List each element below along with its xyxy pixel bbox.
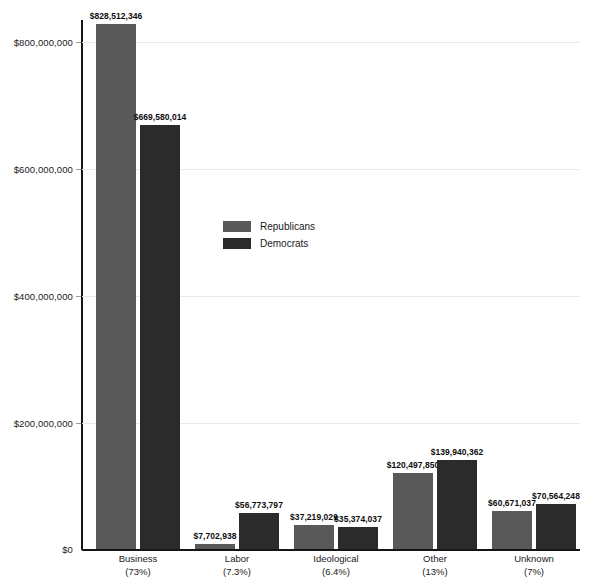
bar-group-other: $120,497,850 $139,940,362 [393, 20, 477, 549]
bar-republicans-unknown[interactable]: $60,671,037 [492, 511, 532, 549]
bar-republicans-other[interactable]: $120,497,850 [393, 473, 433, 549]
plot-area: $828,512,346 $669,580,014 $7,702,938 $56… [82, 20, 580, 549]
category-name: Unknown [514, 553, 554, 564]
legend-swatch-icon [223, 221, 251, 232]
x-axis-line [82, 549, 580, 551]
bar-republicans-ideological[interactable]: $37,219,029 [294, 525, 334, 549]
x-axis-category-labor: Labor (7.3%) [187, 553, 287, 578]
bar-republicans-labor[interactable]: $7,702,938 [195, 544, 235, 549]
bar-democrats-labor[interactable]: $56,773,797 [239, 513, 279, 549]
y-axis-tick-label: $800,000,000 [3, 37, 73, 48]
category-name: Labor [225, 553, 249, 564]
bar-value-label: $7,702,938 [193, 531, 236, 541]
category-percent: (7%) [484, 566, 584, 579]
bar-value-label: $70,564,248 [532, 491, 580, 501]
bar-value-label: $120,497,850 [387, 460, 440, 470]
bar-value-label: $139,940,362 [431, 447, 484, 457]
bar-democrats-ideological[interactable]: $35,374,037 [338, 527, 378, 549]
bar-value-label: $56,773,797 [235, 500, 283, 510]
y-axis-tick-label: $0 [3, 544, 73, 555]
bar-group-unknown: $60,671,037 $70,564,248 [492, 20, 576, 549]
category-name: Ideological [313, 553, 358, 564]
bar-value-label: $669,580,014 [134, 112, 187, 122]
category-percent: (13%) [385, 566, 485, 579]
y-axis-tick-label: $600,000,000 [3, 164, 73, 175]
bar-group-ideological: $37,219,029 $35,374,037 [294, 20, 378, 549]
bar-chart: $800,000,000 $600,000,000 $400,000,000 $… [0, 0, 602, 579]
category-name: Business [119, 553, 158, 564]
bar-group-business: $828,512,346 $669,580,014 [96, 20, 180, 549]
bar-value-label: $35,374,037 [334, 514, 382, 524]
legend-item-republicans[interactable]: Republicans [223, 219, 315, 234]
x-axis-category-ideological: Ideological (6.4%) [286, 553, 386, 578]
legend-label: Republicans [260, 221, 315, 232]
y-axis-tick-label: $200,000,000 [3, 418, 73, 429]
x-axis-labels: Business (73%) Labor (7.3%) Ideological … [82, 553, 580, 579]
y-axis-tick-label: $400,000,000 [3, 291, 73, 302]
bar-republicans-business[interactable]: $828,512,346 [96, 24, 136, 549]
x-axis-category-unknown: Unknown (7%) [484, 553, 584, 578]
y-axis-labels: $800,000,000 $600,000,000 $400,000,000 $… [0, 0, 73, 579]
category-percent: (6.4%) [286, 566, 386, 579]
legend-item-democrats[interactable]: Democrats [223, 236, 315, 251]
bar-group-labor: $7,702,938 $56,773,797 [195, 20, 279, 549]
category-percent: (73%) [88, 566, 188, 579]
x-axis-category-business: Business (73%) [88, 553, 188, 578]
bar-value-label: $37,219,029 [290, 512, 338, 522]
category-percent: (7.3%) [187, 566, 287, 579]
bar-democrats-unknown[interactable]: $70,564,248 [536, 504, 576, 549]
bar-value-label: $60,671,037 [488, 498, 536, 508]
category-name: Other [423, 553, 447, 564]
x-axis-category-other: Other (13%) [385, 553, 485, 578]
bar-democrats-business[interactable]: $669,580,014 [140, 125, 180, 549]
legend: Republicans Democrats [223, 219, 315, 253]
bar-democrats-other[interactable]: $139,940,362 [437, 460, 477, 549]
legend-swatch-icon [223, 238, 251, 249]
legend-label: Democrats [260, 238, 308, 249]
bar-value-label: $828,512,346 [90, 11, 143, 21]
